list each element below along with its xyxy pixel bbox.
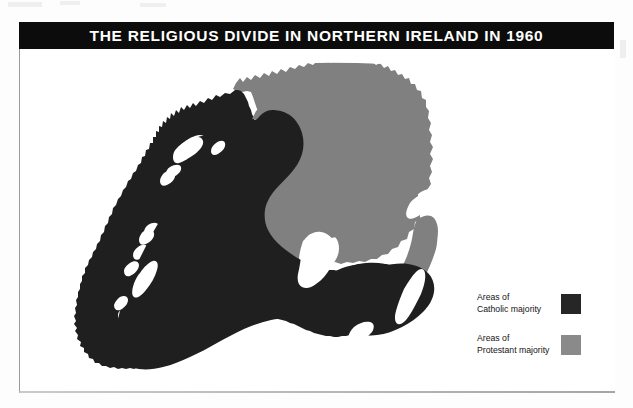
legend-line-1: Areas of bbox=[477, 292, 509, 302]
scan-artifact bbox=[8, 2, 42, 7]
frame-bottom-shadow bbox=[19, 391, 615, 393]
map-legend: Areas of Catholic majority Areas of Prot… bbox=[477, 292, 607, 374]
scan-artifact bbox=[140, 3, 166, 7]
scan-artifact bbox=[60, 1, 80, 5]
legend-line-1: Areas of bbox=[477, 333, 509, 343]
legend-label-catholic: Areas of Catholic majority bbox=[477, 292, 557, 315]
legend-label-protestant: Areas of Protestant majority bbox=[477, 333, 557, 356]
figure-title-bar: THE RELIGIOUS DIVIDE IN NORTHERN IRELAND… bbox=[19, 22, 614, 49]
map-panel: Areas of Catholic majority Areas of Prot… bbox=[19, 49, 614, 393]
legend-item-protestant: Areas of Protestant majority bbox=[477, 333, 607, 356]
protestant-majority-swatch bbox=[561, 335, 581, 355]
legend-line-2: Catholic majority bbox=[477, 304, 557, 316]
catholic-majority-swatch bbox=[561, 294, 581, 314]
figure-page: THE RELIGIOUS DIVIDE IN NORTHERN IRELAND… bbox=[0, 0, 633, 408]
legend-line-2: Protestant majority bbox=[477, 345, 557, 357]
legend-item-catholic: Areas of Catholic majority bbox=[477, 292, 607, 315]
page-title: THE RELIGIOUS DIVIDE IN NORTHERN IRELAND… bbox=[90, 27, 544, 45]
scan-artifact bbox=[620, 40, 626, 58]
